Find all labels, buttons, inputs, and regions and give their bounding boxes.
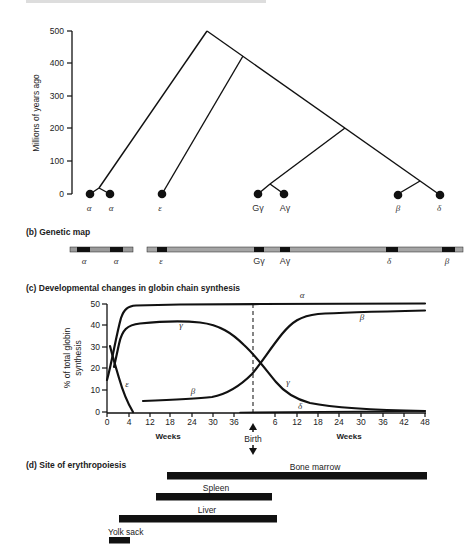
curve-epsilon bbox=[110, 346, 133, 412]
leaf-node-beta bbox=[394, 191, 403, 200]
ytick-20: 20 bbox=[91, 363, 101, 373]
tree-ytick-300: 300 bbox=[50, 91, 64, 101]
tree-leaf-labels: α α ε Gγ Aγ β δ bbox=[87, 203, 442, 213]
label-delta: δ bbox=[298, 401, 303, 411]
tree-ytick-400: 400 bbox=[50, 58, 64, 68]
ytick-40: 40 bbox=[91, 320, 101, 330]
leaf-label-g-gamma: Gγ bbox=[252, 203, 264, 213]
site-label-spleen: Spleen bbox=[203, 483, 230, 493]
leaf-label-a-gamma: Aγ bbox=[280, 203, 291, 213]
xtick-pre-0: 0 bbox=[105, 417, 110, 427]
site-bar-bone-marrow: Bone marrow bbox=[167, 462, 427, 480]
chart-y-label-line2: synthesis bbox=[73, 340, 83, 375]
panel-b-title: (b) Genetic map bbox=[26, 227, 90, 237]
curve-gamma bbox=[114, 322, 425, 411]
xtick-post-30: 30 bbox=[356, 417, 366, 427]
xtick-post-48: 48 bbox=[420, 417, 430, 427]
figure: 0 100 200 300 400 500 Millions of years … bbox=[0, 0, 474, 555]
tree-ytick-500: 500 bbox=[50, 26, 64, 36]
label-alpha: α bbox=[300, 290, 305, 300]
xtick-pre-12: 12 bbox=[145, 417, 155, 427]
xtick-post-36: 36 bbox=[378, 417, 388, 427]
chromosome-alpha-segment bbox=[70, 247, 133, 252]
ytick-30: 30 bbox=[91, 342, 101, 352]
tree-y-ticks: 0 100 200 300 400 500 bbox=[50, 26, 72, 199]
site-label-bone-marrow: Bone marrow bbox=[290, 462, 341, 472]
xtick-post-18: 18 bbox=[313, 417, 323, 427]
panel-c-title: (c) Developmental changes in globin chai… bbox=[26, 283, 240, 293]
birth-label: Birth bbox=[244, 434, 262, 444]
curve-beta bbox=[143, 311, 425, 402]
site-bar-spleen: Spleen bbox=[156, 483, 272, 501]
gene-label-g-gamma: Gγ bbox=[253, 256, 265, 266]
label-gamma-prenatal: γ bbox=[179, 320, 183, 330]
panel-b-genetic-map: (b) Genetic map α α ε Gγ Aγ δ β bbox=[26, 227, 463, 266]
birth-arrow-up-icon bbox=[249, 423, 257, 430]
leaf-node-epsilon bbox=[158, 190, 167, 199]
chart-y-tick-labels: 0 10 20 30 40 50 bbox=[91, 299, 101, 417]
gene-label-alpha-2: α bbox=[114, 256, 119, 266]
chromosome-beta-segment bbox=[147, 247, 463, 252]
gene-label-beta: β bbox=[444, 256, 450, 266]
tree-ytick-0: 0 bbox=[59, 189, 64, 199]
leaf-label-delta: δ bbox=[437, 203, 442, 213]
xtick-pre-4: 4 bbox=[127, 417, 132, 427]
tree-ytick-100: 100 bbox=[50, 156, 64, 166]
leaf-label-alpha-2: α bbox=[109, 203, 114, 213]
x-label-weeks-prenatal: Weeks bbox=[155, 432, 181, 441]
x-label-weeks-postnatal: Weeks bbox=[336, 432, 362, 441]
leaf-label-beta: β bbox=[395, 203, 401, 213]
leaf-node-alpha-1 bbox=[86, 190, 95, 199]
chart-y-label-line1: % of total globin bbox=[62, 327, 72, 388]
site-label-liver: Liver bbox=[198, 505, 217, 515]
panel-a-tree: 0 100 200 300 400 500 Millions of years … bbox=[31, 26, 444, 213]
panel-d-title: (d) Site of erythropoiesis bbox=[26, 460, 126, 470]
xtick-post-42: 42 bbox=[399, 417, 409, 427]
tree-leaf-nodes bbox=[86, 190, 445, 200]
site-label-yolk-sack: Yolk sack bbox=[108, 527, 144, 537]
chart-y-ticks bbox=[102, 304, 107, 412]
tree-y-axis-label: Millions of years ago bbox=[31, 74, 41, 152]
birth-marker: Birth bbox=[244, 423, 262, 455]
curve-labels: α γ γ β β ε δ bbox=[125, 290, 365, 411]
panel-d-erythropoiesis: (d) Site of erythropoiesis Bone marrow S… bbox=[26, 460, 427, 544]
site-bar-yolk-sack: Yolk sack bbox=[108, 527, 144, 544]
label-epsilon: ε bbox=[125, 379, 129, 389]
gene-label-a-gamma: Aγ bbox=[280, 256, 291, 266]
leaf-label-alpha-1: α bbox=[87, 203, 92, 213]
leaf-label-epsilon: ε bbox=[158, 203, 162, 213]
label-gamma-postnatal: γ bbox=[286, 377, 290, 387]
chart-x-tick-labels-postnatal: 6 12 18 24 30 36 42 48 bbox=[273, 417, 430, 427]
label-beta-postnatal: β bbox=[359, 312, 365, 322]
gene-label-epsilon: ε bbox=[159, 256, 163, 266]
chart-x-tick-labels-prenatal: 0 4 12 18 24 30 36 bbox=[105, 417, 239, 427]
chart-curves bbox=[107, 304, 425, 413]
xtick-pre-18: 18 bbox=[165, 417, 175, 427]
leaf-node-delta bbox=[436, 191, 445, 200]
ytick-50: 50 bbox=[91, 299, 101, 309]
site-bar-liver: Liver bbox=[119, 505, 277, 523]
xtick-pre-30: 30 bbox=[208, 417, 218, 427]
panel-a-title-cutoff bbox=[26, 0, 266, 3]
leaf-node-g-gamma bbox=[254, 190, 263, 199]
label-beta-prenatal: β bbox=[190, 386, 196, 396]
leaf-node-a-gamma bbox=[280, 190, 289, 199]
tree-ytick-200: 200 bbox=[50, 123, 64, 133]
gene-label-alpha-1: α bbox=[82, 256, 87, 266]
gene-labels: α α ε Gγ Aγ δ β bbox=[82, 256, 450, 266]
xtick-post-12: 12 bbox=[292, 417, 302, 427]
xtick-pre-24: 24 bbox=[187, 417, 197, 427]
ytick-10: 10 bbox=[91, 385, 101, 395]
panel-c-globin-chart: (c) Developmental changes in globin chai… bbox=[26, 283, 430, 455]
tree-branches bbox=[90, 31, 440, 195]
leaf-node-alpha-2 bbox=[106, 190, 115, 199]
xtick-post-24: 24 bbox=[334, 417, 344, 427]
xtick-pre-36: 36 bbox=[229, 417, 239, 427]
ytick-0: 0 bbox=[95, 407, 100, 417]
gene-label-delta: δ bbox=[387, 256, 392, 266]
xtick-post-6: 6 bbox=[273, 417, 278, 427]
birth-arrow-down-icon bbox=[249, 448, 257, 455]
